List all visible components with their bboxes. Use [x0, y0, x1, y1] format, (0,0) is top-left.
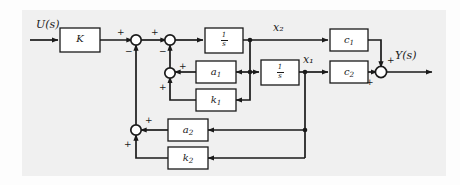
block-label-k2: k2 [168, 153, 208, 164]
branch-dot-x1 [303, 70, 308, 75]
block-label-a2: a2 [168, 125, 208, 136]
sign-sum4-plus-a2: + [145, 116, 153, 125]
block-label-K: K [60, 34, 100, 44]
summing-junction-1 [131, 35, 141, 45]
summing-junction-2 [165, 35, 175, 45]
block-label-c1-sub: 1 [350, 38, 355, 47]
sign-sum2-plus: + [151, 28, 159, 37]
sign-sum3-plus-a1: + [179, 62, 187, 71]
sign-sum3-plus-k1: + [159, 83, 167, 92]
signal-label-x2: x₂ [273, 22, 284, 33]
sign-sum1-minus: − [125, 47, 133, 56]
output-signal-label: Y(s) [395, 50, 417, 61]
block-diagram-svg [0, 0, 460, 185]
block-label-k2-sub: 2 [189, 156, 194, 165]
block-label-a1-sub: 1 [217, 70, 222, 79]
signal-label-x1: x₁ [303, 54, 314, 65]
integrator-denominator-1: s [221, 41, 228, 48]
block-label-integrator-2: 1 s [261, 64, 299, 81]
branch-dot-x1-a2 [303, 128, 308, 133]
block-label-c1: c1 [330, 35, 368, 46]
input-signal-label: U(s) [36, 19, 60, 30]
block-label-c2: c2 [330, 67, 368, 78]
block-label-a1: a1 [196, 67, 236, 78]
summing-junction-output [375, 66, 386, 77]
summing-junction-4 [131, 125, 141, 135]
sign-sumout-plus-c2: + [366, 78, 374, 87]
summing-junction-3 [165, 68, 175, 78]
wire-k1-to-sum3 [170, 77, 196, 100]
block-label-integrator-1: 1 s [205, 32, 243, 49]
block-label-k1: k1 [196, 95, 236, 106]
integrator-numerator-2: 1 [277, 64, 284, 71]
integrator-numerator-1: 1 [221, 32, 228, 39]
sign-sum4-plus-k2: + [124, 140, 132, 149]
sign-sumout-plus-c1: + [387, 56, 395, 65]
wire-k2-to-sum4 [136, 135, 168, 159]
block-label-k1-sub: 1 [217, 98, 222, 107]
branch-dot-x2-mid [248, 70, 253, 75]
integrator-denominator-2: s [277, 73, 284, 80]
block-label-a2-sub: 2 [189, 128, 194, 137]
figure-canvas: U(s) Y(s) x₂ x₁ K 1 s 1 s c1 c2 a1 k1 a2… [0, 0, 460, 185]
sign-sum2-minus: − [159, 47, 167, 56]
wire-c1-to-sumout [368, 40, 381, 68]
sign-sum1-plus: + [117, 28, 125, 37]
wire-x2-to-k1 [236, 72, 250, 100]
branch-dot-x2 [248, 38, 253, 43]
block-label-c2-sub: 2 [350, 70, 355, 79]
